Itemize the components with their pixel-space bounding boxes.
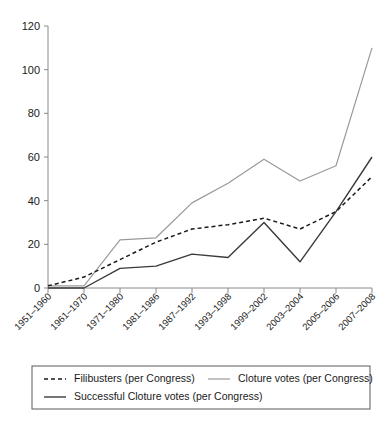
x-tick-label: 1987–1992 [156,291,197,332]
y-tick-label: 120 [22,20,40,32]
line-chart: 020406080100120 1951–19601961–19701971–1… [0,0,392,437]
series-line-solid-light [48,48,372,286]
y-tick-label: 100 [22,64,40,76]
series-group [48,48,372,288]
x-tick-label: 1999–2002 [228,291,269,332]
y-tick-label: 60 [28,151,40,163]
x-tick-label: 1951–1960 [12,291,53,332]
legend-label: Filibusters (per Congress) [74,372,195,384]
y-tick-label: 20 [28,238,40,250]
y-axis: 020406080100120 [22,20,48,294]
x-tick-label: 1993–1998 [192,291,233,332]
x-tick-label: 1981–1986 [120,291,161,332]
y-tick-group: 020406080100120 [22,20,48,294]
series-line-solid-dark [48,157,372,288]
y-tick-label: 80 [28,107,40,119]
x-tick-label: 2005–2006 [300,291,341,332]
x-tick-label: 1961–1970 [48,291,89,332]
x-tick-group: 1951–19601961–19701971–19801981–19861987… [12,288,377,332]
x-tick-label: 2007–2008 [336,291,377,332]
x-tick-label: 2003–2004 [264,291,305,332]
legend-entries: Filibusters (per Congress)Cloture votes … [44,372,373,402]
legend: Filibusters (per Congress)Cloture votes … [32,366,373,409]
legend-label: Successful Cloture votes (per Congress) [74,390,263,402]
legend-label: Cloture votes (per Congress) [238,372,373,384]
x-axis: 1951–19601961–19701971–19801981–19861987… [12,288,377,332]
x-tick-label: 1971–1980 [84,291,125,332]
chart-container: 020406080100120 1951–19601961–19701971–1… [0,0,392,437]
y-tick-label: 40 [28,195,40,207]
y-tick-label: 0 [34,282,40,294]
